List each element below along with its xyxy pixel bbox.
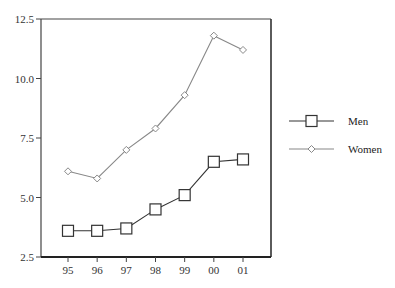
x-tick-label: 96 [92, 264, 104, 276]
square-marker-icon [238, 154, 249, 165]
y-tick-label: 2.5 [20, 251, 34, 263]
line-chart: 2.55.07.510.012.5 95969798990001 MenWome… [0, 0, 395, 288]
square-marker-icon [179, 190, 190, 201]
x-tick-label: 98 [150, 264, 162, 276]
x-tick-label: 00 [208, 264, 220, 276]
y-axis-ticks: 2.55.07.510.012.5 [15, 13, 41, 263]
square-marker-icon [208, 156, 219, 167]
square-marker-icon [92, 225, 103, 236]
x-tick-label: 01 [238, 264, 249, 276]
series-line [68, 159, 243, 230]
y-tick-label: 7.5 [20, 132, 34, 144]
legend-label: Women [348, 143, 382, 155]
chart-legend: MenWomen [289, 115, 382, 155]
x-tick-label: 99 [179, 264, 191, 276]
diamond-marker-icon [210, 32, 217, 39]
y-tick-label: 12.5 [15, 13, 35, 25]
x-axis-ticks: 95969798990001 [63, 257, 249, 276]
square-marker-icon [121, 223, 132, 234]
square-marker-icon [63, 225, 74, 236]
legend-item-women: Women [289, 143, 382, 155]
chart-series [63, 32, 249, 236]
series-men [63, 154, 249, 236]
legend-item-men: Men [289, 115, 369, 127]
chart-axes [41, 19, 271, 257]
diamond-marker-icon [308, 146, 315, 153]
x-tick-label: 95 [63, 264, 75, 276]
y-tick-label: 5.0 [20, 192, 34, 204]
x-tick-label: 97 [121, 264, 133, 276]
diamond-marker-icon [65, 168, 72, 175]
legend-label: Men [348, 115, 369, 127]
square-marker-icon [306, 116, 317, 127]
diamond-marker-icon [240, 46, 247, 53]
square-marker-icon [150, 204, 161, 215]
y-tick-label: 10.0 [15, 73, 35, 85]
